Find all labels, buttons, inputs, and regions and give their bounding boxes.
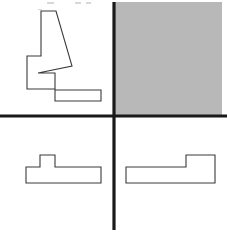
ell-polygon bbox=[126, 155, 215, 183]
scan-specks bbox=[38, 2, 91, 10]
scan-speck bbox=[47, 2, 54, 4]
scan-speck bbox=[75, 2, 81, 4]
scan-speck bbox=[38, 9, 42, 10]
shaded-square bbox=[115, 2, 222, 116]
tee-polygon bbox=[26, 155, 101, 183]
notched-stepped-polygon bbox=[27, 11, 101, 101]
four-quadrant-shape-diagram bbox=[0, 0, 227, 232]
scan-speck bbox=[86, 2, 91, 4]
diagram-canvas bbox=[0, 0, 227, 232]
